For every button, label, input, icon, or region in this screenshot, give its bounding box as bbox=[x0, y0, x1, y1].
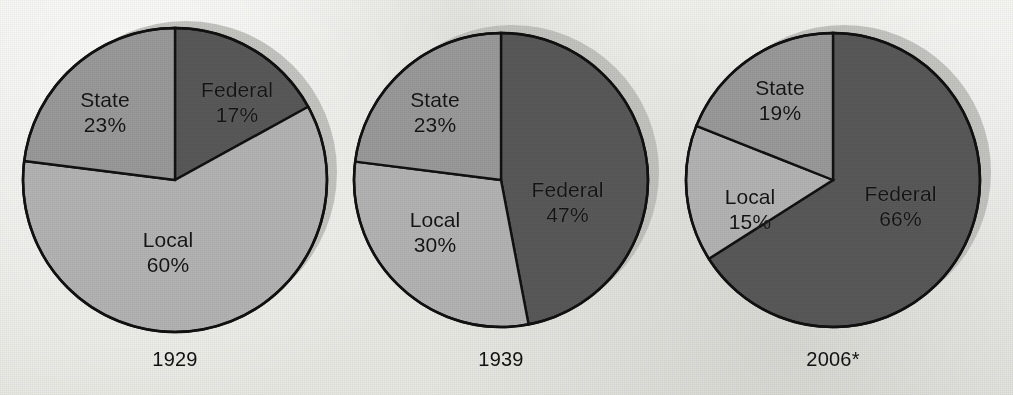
slice-label-federal-2006: Federal 66% bbox=[843, 182, 958, 232]
slice-label-state-1929: State 23% bbox=[55, 88, 155, 138]
slice-label-local-name-1929: Local bbox=[143, 228, 194, 251]
slice-label-federal-pct-1939: 47% bbox=[510, 203, 625, 228]
pie-chart-row: Federal 17% State 23% Local 60% 1929 bbox=[0, 0, 1013, 395]
slice-label-federal-pct-1929: 17% bbox=[182, 103, 292, 128]
slice-label-federal-name-1929: Federal bbox=[201, 78, 273, 101]
pie-svg-2006 bbox=[662, 0, 1013, 360]
year-label-1939: 1939 bbox=[451, 348, 551, 371]
slice-label-local-1939: Local 30% bbox=[385, 208, 485, 258]
slice-label-local-2006: Local 15% bbox=[700, 185, 800, 235]
slice-label-local-pct-1929: 60% bbox=[118, 253, 218, 278]
slice-label-local-pct-1939: 30% bbox=[385, 233, 485, 258]
year-label-2006: 2006* bbox=[783, 348, 883, 371]
slice-label-local-name-2006: Local bbox=[725, 185, 776, 208]
slice-label-state-2006: State 19% bbox=[730, 76, 830, 126]
slice-label-federal-name-2006: Federal bbox=[865, 182, 937, 205]
pie-chart-1929: Federal 17% State 23% Local 60% 1929 bbox=[0, 0, 350, 395]
year-label-1929: 1929 bbox=[125, 348, 225, 371]
pie-chart-2006: Federal 66% State 19% Local 15% 2006* bbox=[662, 0, 1013, 395]
slice-label-state-pct-1929: 23% bbox=[55, 113, 155, 138]
pie-slices-1929 bbox=[23, 28, 327, 332]
pie-svg-1929 bbox=[0, 0, 350, 360]
slice-label-local-pct-2006: 15% bbox=[700, 210, 800, 235]
pie-graphic-1929 bbox=[0, 0, 350, 360]
slice-label-state-pct-1939: 23% bbox=[385, 113, 485, 138]
slice-label-state-1939: State 23% bbox=[385, 88, 485, 138]
slice-label-federal-name-1939: Federal bbox=[532, 178, 604, 201]
pie-graphic-2006 bbox=[662, 0, 1013, 360]
figure-canvas: Federal 17% State 23% Local 60% 1929 bbox=[0, 0, 1013, 395]
slice-label-local-name-1939: Local bbox=[410, 208, 461, 231]
slice-label-federal-1939: Federal 47% bbox=[510, 178, 625, 228]
pie-chart-1939: Federal 47% State 23% Local 30% 1939 bbox=[330, 0, 670, 395]
slice-label-state-name-1929: State bbox=[80, 88, 130, 111]
slice-label-federal-pct-2006: 66% bbox=[843, 207, 958, 232]
slice-label-local-1929: Local 60% bbox=[118, 228, 218, 278]
slice-label-state-name-2006: State bbox=[755, 76, 805, 99]
slice-label-state-name-1939: State bbox=[410, 88, 460, 111]
slice-label-federal-1929: Federal 17% bbox=[182, 78, 292, 128]
slice-label-state-pct-2006: 19% bbox=[730, 101, 830, 126]
